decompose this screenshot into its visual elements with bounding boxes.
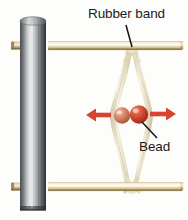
metal-cylinder <box>20 17 46 210</box>
physics-figure: Rubber band Bead <box>0 0 188 220</box>
figure-canvas <box>0 0 188 220</box>
bead-right-sphere <box>130 105 148 123</box>
rod-bottom-body <box>48 182 182 191</box>
cylinder-body <box>20 21 46 210</box>
label-rubber-band: Rubber band <box>88 7 165 21</box>
bead-left <box>114 107 130 123</box>
bead-left-sphere <box>114 107 130 123</box>
label-bead: Bead <box>139 140 170 154</box>
rod-top-body <box>48 41 182 50</box>
bead-right-highlight <box>133 109 139 113</box>
rod-bottom-right-end <box>180 182 183 191</box>
bead-right <box>130 105 148 123</box>
bead-left-highlight <box>117 110 122 114</box>
